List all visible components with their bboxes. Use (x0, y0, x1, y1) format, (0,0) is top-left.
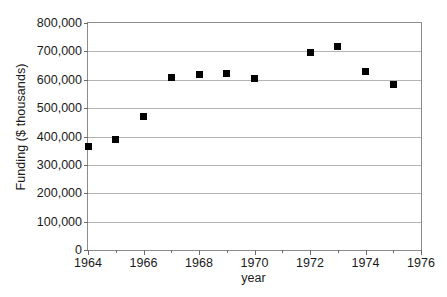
gridline (88, 165, 421, 166)
x-axis-tick-label: 1964 (58, 257, 118, 270)
data-point (168, 74, 175, 81)
y-axis-tick-label: 0 (2, 244, 88, 257)
x-axis-minor-tick-mark (227, 250, 228, 253)
data-point (223, 70, 230, 77)
gridline (88, 222, 421, 223)
data-point (112, 136, 119, 143)
x-axis-tick-label: 1970 (225, 257, 285, 270)
y-axis-tick-label: 800,000 (2, 17, 88, 30)
y-axis-tick-label: 700,000 (2, 45, 88, 58)
data-point (85, 143, 92, 150)
x-axis-tick-mark (88, 250, 89, 255)
x-axis-tick-label: 1976 (391, 257, 447, 270)
x-axis-tick-label: 1968 (169, 257, 229, 270)
x-axis-minor-tick-mark (282, 250, 283, 253)
x-axis-tick-mark (366, 250, 367, 255)
data-point (251, 75, 258, 82)
y-axis-tick-label: 400,000 (2, 130, 88, 143)
x-axis-tick-mark (144, 250, 145, 255)
y-axis-tick-label: 200,000 (2, 187, 88, 200)
x-axis-title: year (87, 272, 420, 285)
x-axis-minor-tick-mark (116, 250, 117, 253)
plot-area: 0100,000200,000300,000400,000500,000600,… (87, 22, 422, 251)
x-axis-minor-tick-mark (338, 250, 339, 253)
x-axis-tick-mark (421, 250, 422, 255)
y-axis-tick-label: 600,000 (2, 74, 88, 87)
data-point (140, 113, 147, 120)
gridline (88, 193, 421, 194)
x-axis-tick-label: 1974 (336, 257, 396, 270)
x-axis-tick-mark (199, 250, 200, 255)
gridline (88, 108, 421, 109)
data-point (362, 68, 369, 75)
x-axis-tick-label: 1966 (114, 257, 174, 270)
gridline (88, 137, 421, 138)
data-point (334, 43, 341, 50)
y-axis-tick-label: 100,000 (2, 215, 88, 228)
x-axis-tick-mark (255, 250, 256, 255)
y-axis-tick-label: 300,000 (2, 159, 88, 172)
scatter-chart: Funding ($ thousands) 0100,000200,000300… (0, 0, 447, 297)
y-axis-tick-label: 500,000 (2, 102, 88, 115)
data-point (196, 71, 203, 78)
x-axis-minor-tick-mark (393, 250, 394, 253)
x-axis-minor-tick-mark (171, 250, 172, 253)
x-axis-tick-mark (310, 250, 311, 255)
x-axis-tick-label: 1972 (280, 257, 340, 270)
data-point (390, 81, 397, 88)
data-point (307, 49, 314, 56)
gridline (88, 51, 421, 52)
